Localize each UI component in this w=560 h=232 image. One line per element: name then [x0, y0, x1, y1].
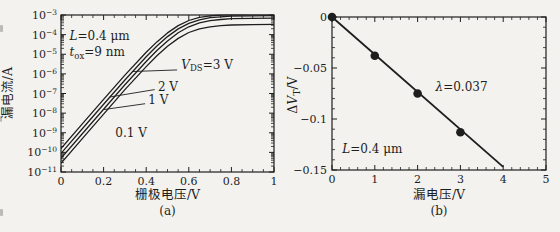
x-tick-label: 0.2: [95, 175, 113, 188]
x-tick-label: 4: [500, 173, 507, 186]
x-tick-label: 0: [58, 175, 65, 188]
annotation-a-0: L=0.4 μm: [69, 29, 131, 43]
y-tick-label: −0.1: [300, 113, 327, 126]
series-label-VDS-0.1V: 0.1 V: [115, 126, 147, 140]
x-tick-label: 3: [457, 173, 464, 186]
y-tick-label: 0: [320, 11, 327, 24]
chart-b-svg: 0123450−0.05−0.1−0.15λ=0.037L=0.4 μm漏电压/…: [285, 0, 560, 232]
chart-a-svg: 00.20.40.60.8110−310−410−510−610−710−810…: [0, 0, 285, 232]
x-axis-title: 漏电压/V: [413, 187, 466, 202]
scanned-figure-page: 00.20.40.60.8110−310−410−510−610−710−810…: [0, 0, 560, 232]
data-point: [413, 89, 422, 98]
data-point: [371, 51, 380, 60]
x-tick-label: 2: [414, 173, 421, 186]
y-tick-label: 10−5: [32, 47, 57, 61]
y-axis-title: 漏电流/A: [0, 66, 15, 119]
y-tick-label: 10−10: [27, 145, 57, 159]
x-tick-label: 0: [329, 173, 336, 186]
x-tick-label: 5: [543, 173, 550, 186]
y-tick-label: 10−11: [27, 165, 57, 179]
y-tick-label: 10−7: [32, 87, 57, 101]
y-tick-label: 10−3: [32, 8, 57, 22]
caption-a: (a): [159, 204, 176, 218]
annotation-b-0: λ=0.037: [435, 80, 488, 94]
series-label-VDS-2V: 2 V: [158, 80, 178, 94]
y-tick-label: 10−4: [32, 28, 57, 42]
data-point: [456, 128, 465, 137]
dibl-threshold-shift-chart: 0123450−0.05−0.1−0.15λ=0.037L=0.4 μm漏电压/…: [285, 0, 560, 232]
y-axis-title: ΔVT/V: [285, 75, 302, 113]
subthreshold-iv-chart: 00.20.40.60.8110−310−410−510−610−710−810…: [0, 0, 285, 232]
series-label-VDS-1V: 1 V: [148, 93, 168, 107]
y-tick-label: 10−6: [32, 67, 57, 81]
y-tick-label: 10−8: [32, 106, 57, 120]
x-axis-title: 栅极电压/V: [135, 187, 201, 202]
y-tick-label: −0.05: [293, 62, 327, 75]
x-tick-label: 1: [271, 175, 278, 188]
caption-b: (b): [430, 204, 447, 218]
x-tick-label: 1: [371, 173, 378, 186]
annotation-a-1: tox=9 nm: [70, 45, 126, 61]
y-tick-label: −0.15: [293, 164, 327, 177]
y-tick-label: 10−9: [32, 126, 57, 140]
x-tick-label: 0.8: [223, 175, 241, 188]
series-label-VDS-3V: VDS=3 V: [181, 58, 233, 74]
data-point: [328, 13, 337, 22]
annotation-b-1: L=0.4 μm: [341, 142, 403, 156]
